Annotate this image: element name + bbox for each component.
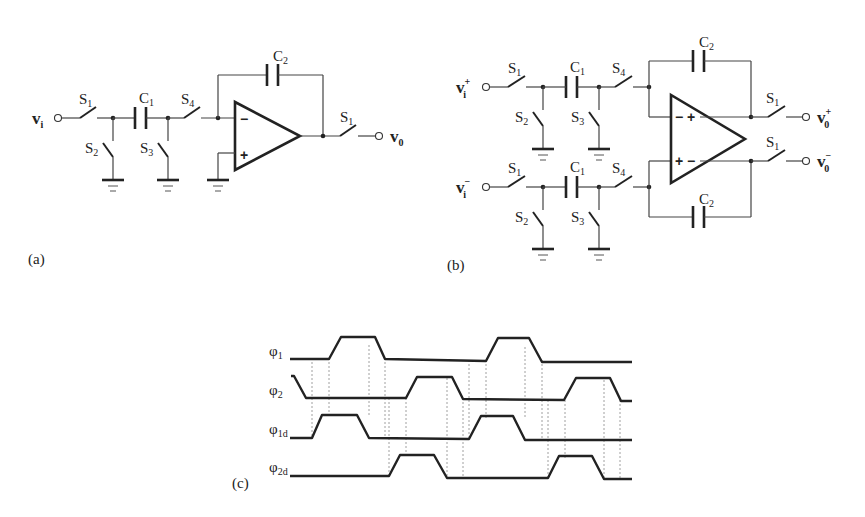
label-phi1: φ1 bbox=[269, 343, 283, 361]
panel-c-caption: (c) bbox=[232, 475, 249, 492]
label-s1-out-top: S1 bbox=[766, 90, 779, 108]
opamp-inverting-sign: − bbox=[240, 111, 248, 127]
label-s4-top: S4 bbox=[612, 60, 625, 78]
label-s3-bottom: S3 bbox=[571, 209, 584, 227]
waveform-phi2 bbox=[291, 376, 632, 401]
label-s1-bottom: S1 bbox=[508, 160, 521, 178]
waveform-phi1 bbox=[290, 337, 632, 362]
label-s2-top: S2 bbox=[515, 109, 528, 127]
label-phi2: φ2 bbox=[269, 382, 283, 400]
panel-b-labels: v+i v−i S1 S2 S3 S4 C1 S1 S2 S3 S4 C1 C2… bbox=[447, 34, 832, 274]
label-s1-top: S1 bbox=[508, 60, 521, 78]
output-negative-label: v−0 bbox=[817, 150, 832, 174]
label-c2: C2 bbox=[273, 48, 288, 66]
label-s1-out-bottom: S1 bbox=[766, 134, 779, 152]
waveform-phi1d bbox=[290, 415, 632, 440]
label-c1: C1 bbox=[139, 90, 154, 108]
label-s1: S1 bbox=[79, 91, 92, 109]
output-terminal bbox=[376, 133, 383, 140]
switched-capacitor-figure: − + vi S1 S2 S3 S4 S1 C1 C2 v0 (a) bbox=[0, 0, 865, 517]
panel-a-caption: (a) bbox=[28, 251, 45, 268]
opamp-bottom-signs: + − bbox=[675, 153, 695, 169]
panel-a-labels: vi S1 S2 S3 S4 S1 C1 C2 v0 (a) bbox=[28, 48, 404, 268]
label-c2-bottom: C2 bbox=[699, 191, 714, 209]
panel-b-caption: (b) bbox=[447, 257, 465, 274]
input-terminal bbox=[55, 115, 62, 122]
output-positive-label: v+0 bbox=[817, 106, 832, 130]
input-positive-label: v+i bbox=[456, 76, 471, 100]
output-terminal-negative bbox=[803, 158, 810, 165]
panel-c-timing-diagram: φ1 φ2 φ1d φ2d (c) bbox=[232, 337, 632, 492]
input-terminal-positive bbox=[483, 84, 490, 91]
label-s2: S2 bbox=[85, 140, 98, 158]
label-s3-top: S3 bbox=[571, 109, 584, 127]
input-label: vi bbox=[32, 109, 44, 130]
switch-s2 bbox=[103, 143, 113, 157]
panel-a-circuit: − + bbox=[55, 64, 383, 191]
input-terminal-negative bbox=[483, 184, 490, 191]
opamp-top-signs: − + bbox=[675, 109, 695, 125]
label-s1-output: S1 bbox=[340, 109, 353, 127]
label-s4: S4 bbox=[181, 91, 194, 109]
output-label: v0 bbox=[390, 127, 404, 148]
input-negative-label: v−i bbox=[456, 176, 471, 200]
panel-b-circuit: − + + − bbox=[483, 50, 810, 260]
label-phi2d: φ2d bbox=[269, 459, 288, 477]
label-c2-top: C2 bbox=[699, 34, 714, 52]
label-s2-bottom: S2 bbox=[515, 209, 528, 227]
label-phi1d: φ1d bbox=[269, 421, 288, 439]
timing-guides bbox=[312, 345, 620, 478]
label-c1-top: C1 bbox=[570, 59, 585, 77]
opamp-noninverting-sign: + bbox=[240, 147, 248, 163]
switch-s3 bbox=[158, 143, 168, 157]
label-s4-bottom: S4 bbox=[612, 160, 625, 178]
label-s3: S3 bbox=[140, 140, 153, 158]
label-c1-bottom: C1 bbox=[570, 159, 585, 177]
output-terminal-positive bbox=[803, 114, 810, 121]
waveform-phi2d bbox=[290, 455, 632, 479]
